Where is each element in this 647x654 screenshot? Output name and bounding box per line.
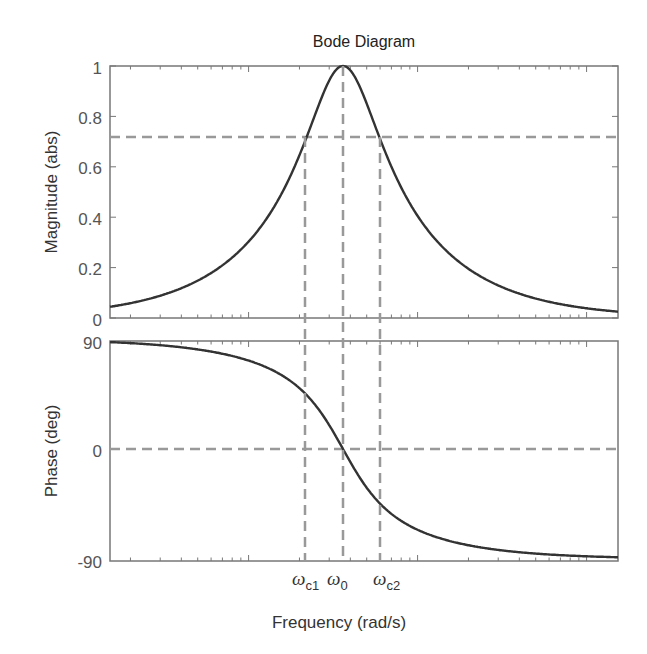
omega-c1-label: ωc1 (292, 568, 319, 593)
magnitude-ticks (110, 66, 618, 318)
bode-diagram: Bode Diagram 1 0.8 0.6 0.4 0.2 0 Magnitu… (0, 0, 647, 654)
magnitude-plot: 1 0.8 0.6 0.4 0.2 0 Magnitude (abs) (42, 59, 618, 330)
phase-plot: 90 0 -90 Phase (deg) (42, 334, 618, 572)
chart-title: Bode Diagram (313, 33, 415, 50)
phase-curve (110, 342, 618, 557)
phase-axes-frame (110, 341, 618, 561)
phase-tick-0: 0 (93, 442, 102, 461)
magnitude-curve (110, 66, 618, 312)
frequency-axis-label: Frequency (rad/s) (272, 613, 406, 632)
mag-tick-1: 1 (93, 59, 102, 78)
mag-tick-0.8: 0.8 (78, 109, 102, 128)
magnitude-axis-label: Magnitude (abs) (42, 131, 61, 254)
phase-axis-label: Phase (deg) (42, 405, 61, 498)
phase-tick-minus90: -90 (77, 553, 102, 572)
phase-ticks (130, 341, 586, 561)
mag-tick-0: 0 (93, 311, 102, 330)
phase-tick-90: 90 (83, 334, 102, 353)
mag-tick-0.2: 0.2 (78, 260, 102, 279)
magnitude-axes-frame (110, 66, 618, 318)
omega-0-label: ω0 (327, 568, 348, 593)
mag-tick-0.6: 0.6 (78, 159, 102, 178)
omega-c2-label: ωc2 (373, 568, 400, 593)
mag-tick-0.4: 0.4 (78, 210, 102, 229)
